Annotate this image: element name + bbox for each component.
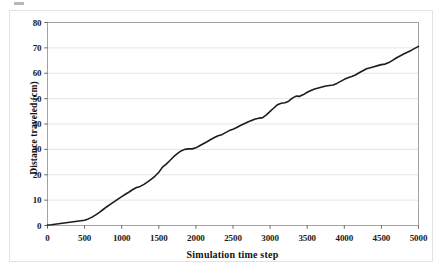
x-tick-label: 2500 bbox=[224, 233, 242, 243]
chart-figure: 0102030405060708005001000150020002500300… bbox=[0, 0, 444, 276]
x-axis-title: Simulation time step bbox=[47, 249, 418, 260]
x-tick-label: 4000 bbox=[335, 233, 353, 243]
x-tick-label: 2000 bbox=[187, 233, 205, 243]
x-tick-label: 0 bbox=[45, 233, 49, 243]
x-tick-label: 5000 bbox=[410, 233, 428, 243]
x-tick-label: 1500 bbox=[150, 233, 168, 243]
y-axis-title: Distance traveled (cm) bbox=[29, 48, 39, 208]
x-tick-label: 1000 bbox=[113, 233, 131, 243]
x-tick-label: 3500 bbox=[298, 233, 316, 243]
x-tick-label: 3000 bbox=[261, 233, 279, 243]
axis-ticks bbox=[44, 23, 418, 229]
gridlines bbox=[48, 23, 419, 201]
y-tick-label: 0 bbox=[6, 221, 42, 231]
x-tick-label: 500 bbox=[78, 233, 91, 243]
x-tick-label: 4500 bbox=[373, 233, 391, 243]
y-tick-label: 80 bbox=[6, 18, 42, 28]
